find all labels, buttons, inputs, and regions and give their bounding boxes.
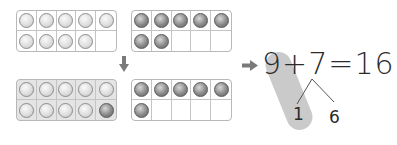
equals-sign: = — [328, 46, 354, 81]
equation: 9+7=16 — [262, 46, 395, 81]
addend-1: 9 — [262, 46, 282, 81]
sum: 16 — [354, 46, 394, 81]
addend-2: 7 — [308, 46, 328, 81]
decomposition-left: 1 — [293, 104, 304, 124]
decomposition-right: 6 — [329, 107, 340, 127]
plus-sign: + — [282, 46, 308, 81]
